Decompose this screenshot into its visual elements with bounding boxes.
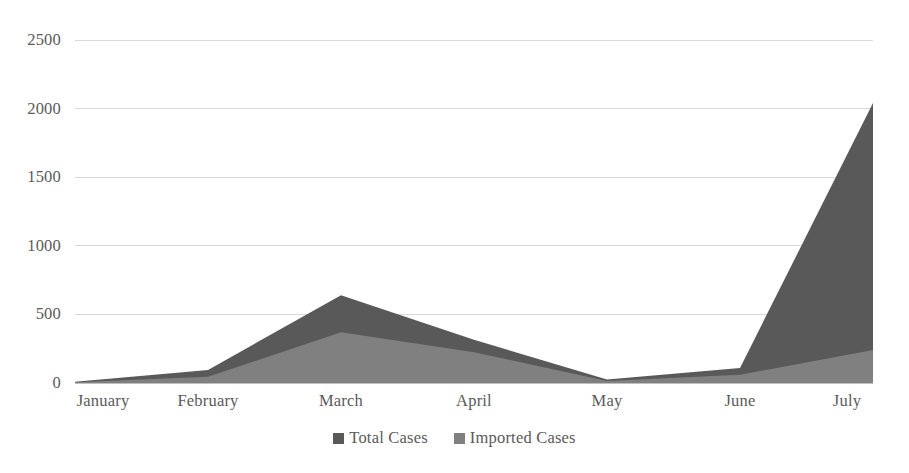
- series-area-total-cases: [75, 103, 873, 383]
- area-chart: 05001000150020002500 JanuaryFebruaryMarc…: [0, 0, 909, 473]
- y-axis-tick-label: 2000: [27, 101, 61, 118]
- y-axis-tick-label: 0: [53, 375, 61, 392]
- x-axis-tick-label-july: July: [777, 393, 909, 410]
- y-axis-tick-label: 1500: [27, 169, 61, 186]
- x-axis-tick-label-february: February: [138, 393, 278, 410]
- x-axis-tick-label-may: May: [537, 393, 677, 410]
- y-axis-tick-label: 2500: [27, 32, 61, 49]
- y-axis-tick-label: 500: [36, 306, 61, 323]
- y-axis-tick-label: 1000: [27, 238, 61, 255]
- gridlines: [75, 40, 873, 383]
- series-areas: [75, 103, 873, 383]
- x-axis-tick-label-april: April: [404, 393, 544, 410]
- x-axis-tick-label-march: March: [271, 393, 411, 410]
